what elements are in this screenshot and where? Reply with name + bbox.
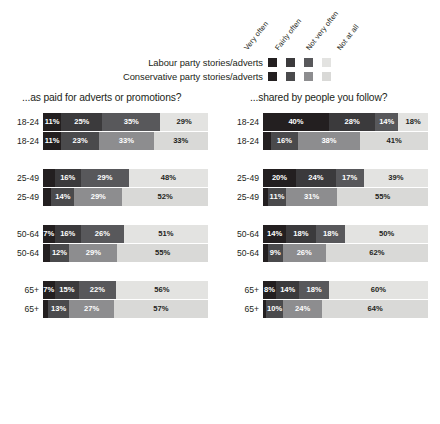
row-age-label: 65+	[228, 285, 263, 295]
bar-segment-2: 29%	[74, 188, 122, 206]
bar-segment-2: 27%	[69, 300, 114, 318]
legend-column-header-3: Not at all	[335, 23, 361, 52]
age-group-25-49: 25-4916%29%48%25-4914%29%52%	[8, 168, 208, 206]
bar-segment-3: 55%	[117, 244, 208, 262]
bar-segment-3: 39%	[364, 169, 428, 187]
stacked-bar: 11%25%35%29%	[43, 113, 208, 131]
stacked-bar: 13%27%57%	[43, 300, 208, 318]
legend-swatch-group	[268, 72, 340, 81]
table-row: 18-2411%25%35%29%	[8, 112, 208, 131]
bar-segment-3: 51%	[124, 225, 208, 243]
bar-segment-3: 57%	[114, 300, 208, 318]
legend-swatch-1	[286, 58, 295, 67]
legend-column-header-1: Fairly often	[273, 17, 303, 52]
bar-segment-0	[43, 169, 55, 187]
row-age-label: 65+	[228, 304, 263, 314]
legend-swatch-3	[322, 72, 331, 81]
row-age-label: 18-24	[228, 117, 263, 127]
bar-segment-1: 24%	[296, 169, 336, 187]
stacked-bar: 12%29%55%	[43, 244, 208, 262]
bar-segment-0: 14%	[263, 225, 286, 243]
chart-panel-left: 18-2411%25%35%29%18-2411%23%33%33%25-491…	[8, 112, 208, 318]
stacked-bar: 16%29%48%	[43, 169, 208, 187]
bar-segment-3: 41%	[360, 132, 428, 150]
row-age-label: 25-49	[228, 192, 263, 202]
stacked-bar: 14%18%18%50%	[263, 225, 428, 243]
bar-segment-3: 52%	[122, 188, 208, 206]
chart-panel-right: 18-2440%28%14%18%18-2416%38%41%25-4920%2…	[228, 112, 428, 318]
stacked-bar: 8%14%18%60%	[263, 281, 428, 299]
bar-segment-1: 14%	[51, 188, 74, 206]
bar-segment-1: 9%	[268, 244, 283, 262]
bar-segment-0: 8%	[263, 281, 276, 299]
table-row: 65+8%14%18%60%	[228, 280, 428, 299]
bar-segment-2: 31%	[286, 188, 337, 206]
age-group-18-24: 18-2440%28%14%18%18-2416%38%41%	[228, 112, 428, 150]
row-age-label: 50-64	[228, 229, 263, 239]
row-age-label: 25-49	[8, 192, 43, 202]
bar-segment-2: 26%	[283, 244, 326, 262]
legend-swatch-group	[268, 58, 340, 67]
row-age-label: 50-64	[8, 229, 43, 239]
bar-segment-0: 7%	[43, 281, 55, 299]
table-row: 50-6414%18%18%50%	[228, 224, 428, 243]
panel-title-right: ...shared by people you follow?	[250, 92, 387, 103]
bar-segment-1: 23%	[61, 132, 99, 150]
legend-label: Labour party stories/adverts	[148, 57, 268, 68]
bar-segment-0	[43, 188, 51, 206]
table-row: 50-6412%29%55%	[8, 243, 208, 262]
row-age-label: 65+	[8, 304, 43, 314]
table-row: 18-2411%23%33%33%	[8, 131, 208, 150]
bar-segment-1: 15%	[55, 281, 80, 299]
stacked-bar: 40%28%14%18%	[263, 113, 428, 131]
legend-swatch-2	[304, 58, 313, 67]
stacked-bar: 14%29%52%	[43, 188, 208, 206]
age-group-25-49: 25-4920%24%17%39%25-4911%31%55%	[228, 168, 428, 206]
age-group-50-64: 50-6414%18%18%50%50-649%26%62%	[228, 224, 428, 262]
bar-segment-1: 14%	[276, 281, 299, 299]
bar-segment-0	[43, 244, 50, 262]
legend-swatch-1	[286, 72, 295, 81]
bar-segment-1: 16%	[55, 225, 81, 243]
table-row: 65+10%24%64%	[228, 299, 428, 318]
age-group-65+: 65+8%14%18%60%65+10%24%64%	[228, 280, 428, 318]
bar-segment-2: 14%	[375, 113, 398, 131]
bar-segment-0: 11%	[43, 132, 61, 150]
table-row: 25-4911%31%55%	[228, 187, 428, 206]
row-age-label: 18-24	[228, 136, 263, 146]
stacked-bar: 11%31%55%	[263, 188, 428, 206]
row-age-label: 25-49	[228, 173, 263, 183]
bar-segment-2: 33%	[99, 132, 153, 150]
bar-segment-2: 38%	[298, 132, 361, 150]
bar-segment-2: 29%	[69, 244, 117, 262]
table-row: 65+13%27%57%	[8, 299, 208, 318]
bar-segment-1: 12%	[50, 244, 70, 262]
stacked-bar: 20%24%17%39%	[263, 169, 428, 187]
bar-segment-2: 22%	[79, 281, 115, 299]
table-row: 25-4920%24%17%39%	[228, 168, 428, 187]
bar-segment-1: 16%	[55, 169, 81, 187]
row-age-label: 50-64	[8, 248, 43, 258]
stacked-bar: 9%26%62%	[263, 244, 428, 262]
table-row: 50-649%26%62%	[228, 243, 428, 262]
bar-segment-2: 24%	[283, 300, 323, 318]
bar-segment-1: 13%	[48, 300, 69, 318]
row-age-label: 25-49	[8, 173, 43, 183]
table-row: 50-647%16%26%51%	[8, 224, 208, 243]
bar-segment-1: 16%	[271, 132, 297, 150]
bar-segment-0: 11%	[43, 113, 61, 131]
bar-segment-3: 33%	[154, 132, 208, 150]
table-row: 18-2416%38%41%	[228, 131, 428, 150]
legend-row-labour: Labour party stories/adverts	[0, 56, 340, 68]
bar-segment-3: 62%	[326, 244, 428, 262]
bar-segment-1: 10%	[266, 300, 283, 318]
stacked-bar: 11%23%33%33%	[43, 132, 208, 150]
bar-segment-2: 26%	[81, 225, 124, 243]
table-row: 65+7%15%22%56%	[8, 280, 208, 299]
legend-swatch-0	[268, 58, 277, 67]
legend-swatch-3	[322, 58, 331, 67]
bar-segment-3: 50%	[345, 225, 428, 243]
legend-swatch-2	[304, 72, 313, 81]
table-row: 18-2440%28%14%18%	[228, 112, 428, 131]
legend-column-headers: Very oftenFairly oftenNot very oftenNot …	[247, 2, 387, 52]
